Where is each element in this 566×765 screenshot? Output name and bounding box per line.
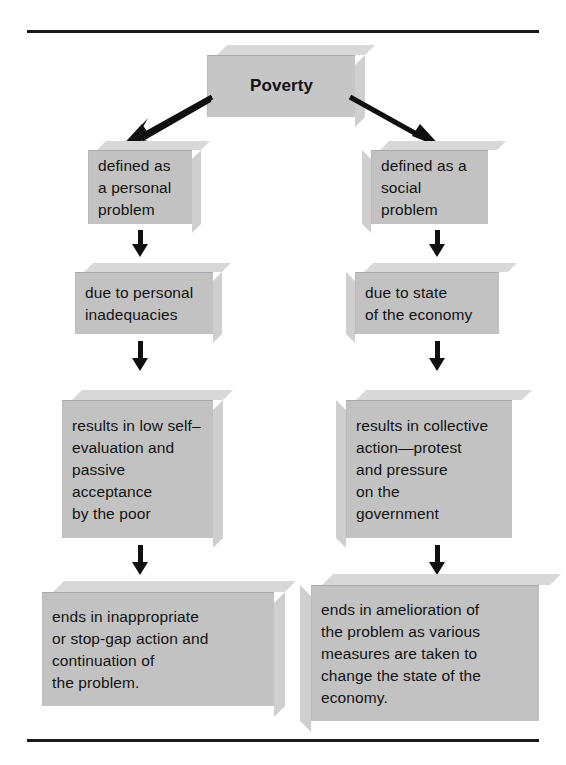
node-poverty-label: Poverty bbox=[241, 74, 322, 98]
box-front-face: results in low self– evaluation and pass… bbox=[62, 400, 213, 538]
box-top-face bbox=[72, 390, 233, 400]
box-top-face bbox=[322, 574, 561, 585]
box-top-face bbox=[380, 141, 506, 150]
box-front-face: defined as a social problem bbox=[371, 150, 488, 224]
box-side-face bbox=[346, 272, 355, 343]
box-side-face bbox=[192, 150, 201, 233]
node-inappropriate-action[interactable]: ends in inappropriate or stop-gap action… bbox=[42, 592, 274, 706]
box-top-face bbox=[364, 263, 517, 272]
box-front-face: ends in inappropriate or stop-gap action… bbox=[42, 592, 274, 706]
flow-diagram: Poverty defined as a personal problem du… bbox=[0, 0, 566, 765]
node-label: ends in amelioration of the problem as v… bbox=[312, 599, 539, 709]
box-side-face bbox=[213, 400, 223, 548]
node-label: due to personal inadequacies bbox=[76, 282, 213, 326]
node-poverty[interactable]: Poverty bbox=[207, 55, 355, 117]
node-low-self-evaluation[interactable]: results in low self– evaluation and pass… bbox=[62, 400, 213, 538]
box-front-face: results in collective action—protest and… bbox=[346, 400, 512, 538]
box-top-face bbox=[217, 45, 375, 55]
node-amelioration[interactable]: ends in amelioration of the problem as v… bbox=[311, 585, 539, 721]
box-top-face bbox=[84, 263, 231, 272]
node-defined-personal[interactable]: defined as a personal problem bbox=[88, 150, 192, 224]
node-label: ends in inappropriate or stop-gap action… bbox=[43, 606, 274, 694]
box-side-face bbox=[300, 585, 311, 732]
node-label: results in low self– evaluation and pass… bbox=[63, 415, 213, 525]
bottom-rule bbox=[27, 739, 539, 742]
box-front-face: due to state of the economy bbox=[355, 272, 499, 334]
node-label: defined as a social problem bbox=[372, 155, 488, 221]
box-side-face bbox=[336, 400, 346, 548]
node-collective-action[interactable]: results in collective action—protest and… bbox=[346, 400, 512, 538]
box-top-face bbox=[53, 581, 296, 592]
box-top-face bbox=[97, 141, 210, 150]
node-label: due to state of the economy bbox=[356, 282, 499, 326]
box-side-face bbox=[362, 150, 371, 233]
box-front-face: Poverty bbox=[207, 55, 355, 117]
node-label: defined as a personal problem bbox=[89, 155, 192, 221]
box-front-face: due to personal inadequacies bbox=[75, 272, 213, 334]
box-side-face bbox=[213, 272, 222, 343]
box-front-face: defined as a personal problem bbox=[88, 150, 192, 224]
node-label: results in collective action—protest and… bbox=[347, 415, 512, 525]
top-rule bbox=[27, 30, 539, 33]
box-front-face: ends in amelioration of the problem as v… bbox=[311, 585, 539, 721]
box-side-face bbox=[274, 592, 285, 717]
box-top-face bbox=[356, 390, 532, 400]
node-defined-social[interactable]: defined as a social problem bbox=[371, 150, 488, 224]
node-personal-inadequacies[interactable]: due to personal inadequacies bbox=[75, 272, 213, 334]
node-state-of-economy[interactable]: due to state of the economy bbox=[355, 272, 499, 334]
